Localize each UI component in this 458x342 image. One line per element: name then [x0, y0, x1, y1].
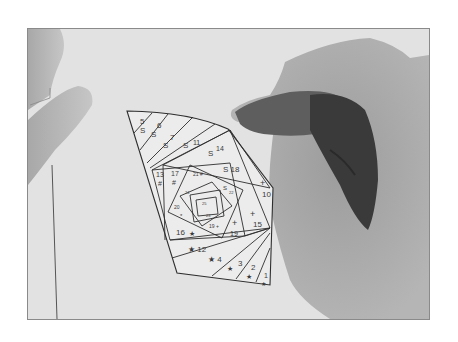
- pattern-label: 24: [185, 190, 190, 195]
- pattern-label: 6: [157, 121, 162, 130]
- pattern-label: S 18: [223, 165, 240, 174]
- pattern-label: ★: [227, 265, 233, 272]
- pattern-label: 19 +: [209, 223, 219, 229]
- pattern-label: 19: [230, 230, 238, 237]
- pattern-label: 16: [176, 228, 185, 237]
- pattern-label: 13: [156, 171, 164, 178]
- pattern-label: ★: [189, 230, 195, 237]
- pattern-label: ★ 12: [188, 245, 207, 254]
- pattern-label: 5: [140, 117, 145, 126]
- pattern-label: +: [260, 178, 265, 188]
- pattern-label: 14: [216, 145, 224, 152]
- pattern-label: #: [158, 180, 162, 187]
- pattern-label: ★: [261, 281, 266, 287]
- pattern-label: 11: [193, 139, 200, 146]
- pattern-label: 25: [202, 201, 207, 206]
- pattern-label: 10: [262, 190, 271, 199]
- photo-scene: 5S6S7SS11S1413#17#S 1821 #S22242520*2319…: [0, 0, 458, 342]
- pattern-label: S: [163, 141, 168, 150]
- pattern-label: 15: [253, 220, 262, 229]
- pattern-label: S: [183, 141, 188, 150]
- pattern-label: 1: [264, 272, 268, 279]
- pattern-label: S: [208, 149, 213, 158]
- pattern-label: 3: [238, 259, 243, 268]
- pattern-label: ★ 4: [208, 255, 222, 264]
- pattern-label: 23: [206, 213, 211, 218]
- pattern-label: 17: [171, 170, 179, 177]
- pattern-label: #: [172, 179, 176, 186]
- pattern-label: +: [250, 209, 255, 219]
- pattern-label: S: [223, 185, 227, 191]
- pattern-label: 21 #: [193, 171, 203, 177]
- pattern-label: ★: [246, 273, 252, 280]
- pattern-label: S: [151, 130, 156, 139]
- pattern-label: 7: [170, 133, 175, 142]
- pattern-label: 22: [229, 190, 234, 195]
- pattern-label: 2: [251, 263, 256, 272]
- pattern-label: 20: [174, 204, 180, 210]
- pattern-label: S: [140, 126, 145, 135]
- pattern-label: +: [232, 218, 237, 228]
